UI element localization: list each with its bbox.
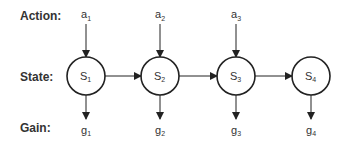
action-label-1: a1: [81, 8, 91, 22]
action-label-2: a2: [155, 8, 165, 22]
state-transition-diagram: Action: State: Gain: a1 a2 a3 S1 S2 S3 S…: [0, 0, 345, 152]
gain-label-1: g1: [81, 124, 91, 137]
row-label-state: State:: [20, 70, 53, 84]
state-node-4: S4: [292, 57, 330, 95]
state-node-3: S3: [217, 57, 255, 95]
row-label-action: Action:: [20, 9, 61, 23]
state-node-2: S2: [141, 57, 179, 95]
state-node-1: S1: [67, 57, 105, 95]
gain-label-4: g4: [306, 124, 316, 137]
gain-label-2: g2: [155, 124, 165, 137]
gain-label-3: g3: [231, 124, 241, 137]
action-label-3: a3: [231, 8, 241, 22]
row-label-gain: Gain:: [20, 121, 51, 135]
